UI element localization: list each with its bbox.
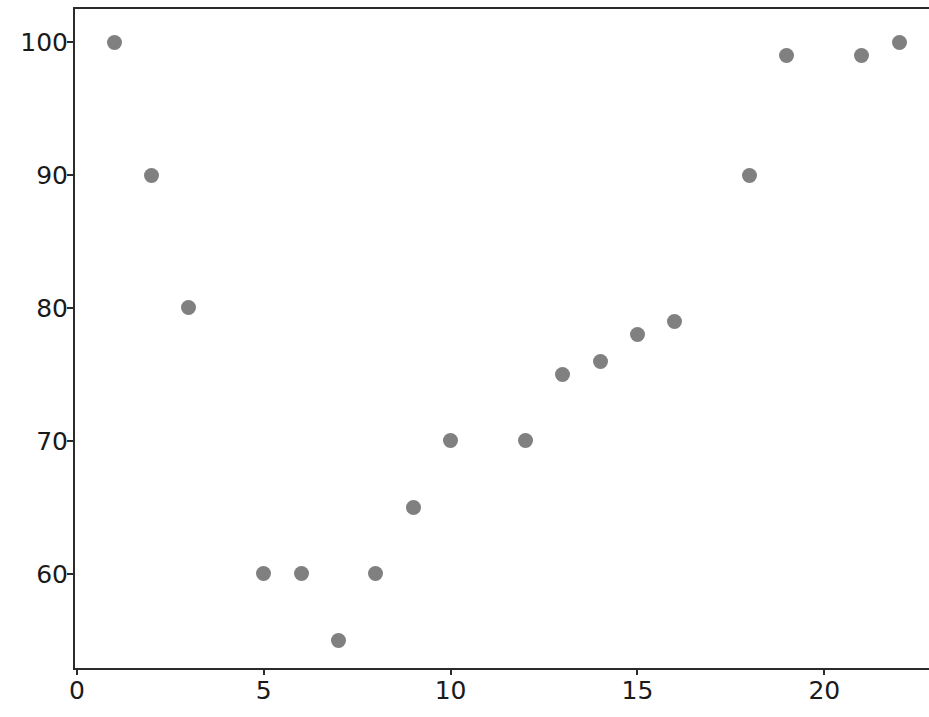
scatter-plot-figure: 60708090100 05101520 <box>0 0 929 717</box>
data-point <box>181 300 196 315</box>
y-tick-mark <box>67 174 74 176</box>
data-point <box>256 566 271 581</box>
y-tick-mark <box>67 307 74 309</box>
x-tick-mark <box>450 668 452 675</box>
y-tick-mark <box>67 573 74 575</box>
x-tick-label: 15 <box>622 678 654 703</box>
data-point <box>742 168 757 183</box>
data-point <box>406 500 421 515</box>
x-tick-label: 20 <box>808 678 840 703</box>
plot-axes: 60708090100 05101520 <box>73 7 929 670</box>
data-point <box>593 354 608 369</box>
data-point <box>144 168 159 183</box>
data-point <box>779 48 794 63</box>
data-point <box>630 327 645 342</box>
y-tick-label: 70 <box>36 428 68 453</box>
data-point-layer <box>75 9 929 668</box>
data-point <box>368 566 383 581</box>
y-tick-mark <box>67 41 74 43</box>
x-tick-mark <box>76 668 78 675</box>
y-tick-mark <box>67 440 74 442</box>
data-point <box>892 35 907 50</box>
x-tick-mark <box>263 668 265 675</box>
data-point <box>331 633 346 648</box>
x-tick-mark <box>636 668 638 675</box>
data-point <box>555 367 570 382</box>
y-tick-label: 90 <box>36 163 68 188</box>
y-tick-label: 80 <box>36 295 68 320</box>
x-tick-label: 0 <box>69 678 85 703</box>
y-tick-label: 100 <box>20 30 68 55</box>
data-point <box>107 35 122 50</box>
data-point <box>443 433 458 448</box>
x-tick-mark <box>823 668 825 675</box>
data-point <box>518 433 533 448</box>
data-point <box>854 48 869 63</box>
x-tick-label: 5 <box>256 678 272 703</box>
data-point <box>294 566 309 581</box>
y-tick-label: 60 <box>36 561 68 586</box>
x-tick-label: 10 <box>435 678 467 703</box>
data-point <box>667 314 682 329</box>
